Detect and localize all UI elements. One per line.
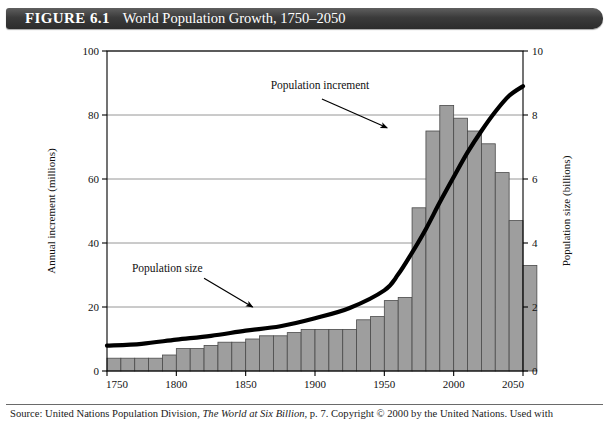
- chart-annotation-arrow: [322, 99, 387, 128]
- x-tick-label: 1850: [235, 378, 258, 390]
- source-work-title: The World at Six Billion: [202, 408, 304, 419]
- figure-number-label: FIGURE 6.1: [25, 10, 110, 27]
- y-axis-title: Annual increment (millions): [45, 148, 58, 274]
- y-tick-label: 0: [94, 365, 100, 377]
- bar: [495, 173, 509, 371]
- bar: [218, 342, 232, 371]
- chart-annotation-label: Population size: [132, 262, 203, 275]
- bar: [329, 329, 343, 371]
- bar: [260, 336, 274, 371]
- bar: [384, 301, 398, 371]
- annotations-group: Population incrementPopulation size: [132, 79, 387, 307]
- bar: [149, 358, 163, 371]
- chart-plot-area: 0204060801000246810175018001850190019502…: [0, 33, 609, 398]
- x-tick-label: 2050: [502, 378, 525, 390]
- x-tick-label: 1800: [165, 378, 188, 390]
- bar: [398, 297, 412, 371]
- x-tick-label: 1750: [106, 378, 129, 390]
- source-prefix: Source:: [10, 408, 45, 419]
- bar: [523, 265, 537, 371]
- footer-divider: [6, 404, 603, 405]
- y-tick-label: 40: [88, 237, 100, 249]
- x-tick-label: 2000: [443, 378, 466, 390]
- y2-axis-title: Population size (billions): [560, 155, 573, 266]
- x-tick-label: 1950: [373, 378, 396, 390]
- bar: [135, 358, 149, 371]
- bar: [426, 131, 440, 371]
- bar: [162, 355, 176, 371]
- y2-tick-label: 6: [532, 173, 538, 185]
- chart-annotation-label: Population increment: [271, 79, 370, 92]
- bar: [190, 349, 204, 371]
- bar: [121, 358, 135, 371]
- figure-container: FIGURE 6.1 World Population Growth, 1750…: [0, 0, 609, 423]
- source-suffix: , p. 7. Copyright © 2000 by the United N…: [304, 408, 552, 419]
- bar: [287, 333, 301, 371]
- bar: [357, 320, 371, 371]
- source-note: Source: United Nations Population Divisi…: [10, 408, 602, 420]
- y2-tick-label: 10: [532, 45, 544, 57]
- x-axis-title: Year: [305, 397, 326, 398]
- bar: [481, 144, 495, 371]
- y2-tick-label: 8: [532, 109, 538, 121]
- source-publisher: United Nations Population Division,: [45, 408, 202, 419]
- bar: [301, 329, 315, 371]
- bar: [107, 358, 121, 371]
- population-growth-chart: 0204060801000246810175018001850190019502…: [0, 33, 609, 398]
- y-tick-label: 80: [88, 109, 100, 121]
- bar: [204, 345, 218, 371]
- bar: [468, 131, 482, 371]
- figure-title-text: World Population Growth, 1750–2050: [123, 10, 346, 27]
- chart-annotation-arrow: [204, 278, 253, 307]
- x-tick-label: 1900: [304, 378, 327, 390]
- y2-tick-label: 2: [532, 301, 538, 313]
- y-tick-label: 20: [88, 301, 100, 313]
- y-tick-label: 60: [88, 173, 100, 185]
- bar: [509, 221, 523, 371]
- bar: [315, 329, 329, 371]
- figure-title-bar: FIGURE 6.1 World Population Growth, 1750…: [6, 8, 603, 29]
- bar: [370, 317, 384, 371]
- bar: [343, 329, 357, 371]
- bar: [176, 349, 190, 371]
- y2-tick-label: 0: [532, 365, 538, 377]
- bar: [273, 336, 287, 371]
- bar: [440, 105, 454, 371]
- y2-tick-label: 4: [532, 237, 538, 249]
- bar: [246, 339, 260, 371]
- bar: [232, 342, 246, 371]
- y-tick-label: 100: [83, 45, 100, 57]
